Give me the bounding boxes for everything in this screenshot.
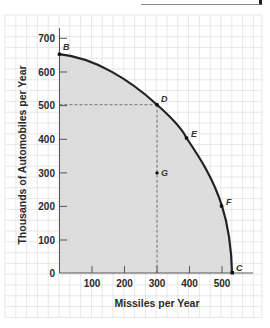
y-tick-500: 500: [38, 100, 55, 111]
point-f: [220, 204, 224, 208]
point-g: [155, 171, 158, 174]
x-axis-title: Missiles per Year: [114, 297, 199, 309]
y-tick-600: 600: [38, 67, 55, 78]
label-d: D: [161, 94, 168, 104]
point-e: [185, 136, 189, 140]
y-tick-200: 200: [38, 201, 55, 212]
label-c: C: [236, 263, 243, 273]
ppf-chart: 0 100 200 300 400 500 600 700 100 200 30…: [0, 0, 270, 328]
y-tick-100: 100: [38, 235, 55, 246]
point-b: [58, 52, 62, 56]
point-c: [231, 271, 235, 275]
x-tick-400: 400: [181, 278, 198, 289]
label-f: F: [226, 197, 232, 207]
y-tick-300: 300: [38, 168, 55, 179]
x-tick-500: 500: [214, 278, 231, 289]
x-tick-300: 300: [149, 278, 166, 289]
y-tick-0: 0: [49, 268, 55, 279]
y-tick-700: 700: [38, 33, 55, 44]
x-tick-100: 100: [84, 278, 101, 289]
x-tick-200: 200: [116, 278, 133, 289]
y-axis-title: Thousands of Automobiles per Year: [16, 65, 28, 244]
label-g: G: [161, 168, 168, 178]
label-b: B: [63, 42, 70, 52]
ppf-shaded-region: [60, 54, 233, 273]
label-e: E: [191, 129, 198, 139]
point-d: [155, 103, 159, 107]
y-tick-400: 400: [38, 134, 55, 145]
x-tick-labels: 100 200 300 400 500: [84, 278, 231, 289]
